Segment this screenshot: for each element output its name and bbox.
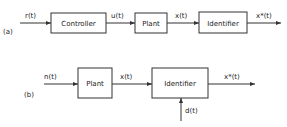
signal-x-label-b: x(t)	[120, 73, 133, 81]
diagram-b-tag: (b)	[24, 91, 34, 99]
identifier-label-b: Identifier	[164, 80, 196, 88]
identifier-label-a: Identifier	[207, 20, 239, 28]
diagram-b: (b) n(t) Plant x(t) Identifier x*(t) d(t…	[24, 68, 255, 121]
arrow-head-icon	[130, 21, 135, 25]
signal-xstar-label-b: x*(t)	[224, 73, 240, 81]
signal-r-label: r(t)	[25, 12, 36, 20]
arrow-head-icon	[179, 98, 183, 103]
disturbance-label: d(t)	[185, 107, 198, 115]
arrow-head-icon	[276, 21, 281, 25]
signal-xstar-label-a: x*(t)	[256, 12, 272, 20]
plant-label-a: Plant	[142, 20, 160, 28]
diagram-a-tag: (a)	[3, 28, 13, 36]
block-diagram: (a) r(t) Controller u(t) Plant x(t) Iden…	[0, 0, 287, 127]
diagram-a: (a) r(t) Controller u(t) Plant x(t) Iden…	[3, 12, 281, 36]
arrow-head-icon	[147, 82, 152, 86]
signal-u-label: u(t)	[111, 12, 124, 20]
signal-x-label-a: x(t)	[175, 12, 188, 20]
signal-n-label: n(t)	[44, 73, 57, 81]
arrow-head-icon	[46, 21, 51, 25]
plant-label-b: Plant	[86, 80, 104, 88]
arrow-head-icon	[73, 82, 78, 86]
arrow-head-icon	[194, 21, 199, 25]
controller-label: Controller	[61, 20, 96, 28]
arrow-head-icon	[250, 82, 255, 86]
